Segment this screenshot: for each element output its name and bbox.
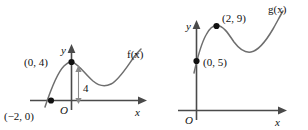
label-f-x-intercept: (−2, 0)	[4, 110, 34, 123]
left-measure-4	[75, 65, 81, 104]
label-function-f: f(x)	[127, 48, 144, 61]
label-g-y-intercept: (0, 5)	[203, 56, 227, 69]
figure-container: (0, 4) (−2, 0) 4 y x O f(x)	[0, 0, 308, 130]
label-function-g: g(x)	[268, 3, 287, 16]
label-left-origin: O	[60, 104, 68, 116]
point-g-max	[213, 23, 219, 29]
point-f-x-intercept	[48, 97, 54, 103]
label-left-x-axis: x	[134, 106, 140, 118]
label-right-origin: O	[185, 114, 193, 126]
label-f-y-intercept: (0, 4)	[24, 56, 48, 69]
right-x-axis	[178, 107, 287, 115]
label-g-max: (2, 9)	[222, 12, 246, 25]
right-y-axis	[193, 20, 201, 120]
right-graph: (2, 9) (0, 5) y x O g(x)	[178, 3, 287, 128]
left-graph: (0, 4) (−2, 0) 4 y x O f(x)	[4, 44, 147, 123]
label-right-x-axis: x	[274, 116, 280, 128]
point-f-y-intercept	[68, 59, 74, 65]
label-left-y-axis: y	[60, 44, 66, 56]
point-g-y-intercept	[193, 58, 199, 64]
label-f-measure: 4	[83, 82, 89, 94]
label-right-y-axis: y	[185, 20, 191, 32]
